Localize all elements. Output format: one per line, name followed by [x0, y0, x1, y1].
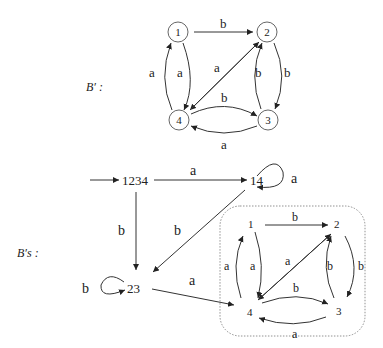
edge-4-3: [191, 106, 257, 116]
state-14: 14: [250, 173, 264, 188]
edge-label-1-4: a: [177, 65, 183, 80]
graph-b-s-prime: B′s : 1234 a 14 a b b 23 b a 1 2 3 4 b: [17, 163, 365, 341]
edge-label-3-4: a: [221, 137, 227, 152]
svg-text:a: a: [224, 259, 230, 273]
svg-text:a: a: [291, 171, 298, 186]
inner-edge-4-1: [236, 236, 243, 298]
edge-label-2-4: a: [214, 60, 220, 75]
inner-edge-3-4: [259, 317, 326, 324]
inner-state-1: 1: [248, 218, 254, 230]
inner-edge-1-4: [255, 232, 261, 298]
edge-2-3: [274, 43, 282, 109]
svg-text:3: 3: [265, 114, 271, 126]
edge-label-3-2: b: [255, 65, 262, 80]
svg-text:a: a: [285, 254, 291, 268]
edge-label-4-3: b: [221, 90, 228, 105]
svg-text:a: a: [292, 327, 298, 341]
edge-4-1: [165, 43, 172, 110]
inner-state-4: 4: [247, 306, 253, 318]
svg-text:4: 4: [176, 114, 182, 126]
svg-text:a: a: [189, 273, 196, 288]
graph-b-s-prime-label: B′s :: [17, 246, 39, 260]
svg-text:b: b: [292, 210, 298, 224]
graph-b-prime-label: B′ :: [86, 80, 103, 94]
edge-23-4: [152, 289, 234, 305]
inner-state-2: 2: [334, 218, 340, 230]
svg-text:b: b: [174, 223, 181, 238]
svg-text:b: b: [82, 281, 89, 296]
edge-label-2-3: b: [284, 65, 291, 80]
inner-edge-4-3: [262, 297, 328, 304]
state-23: 23: [127, 281, 140, 296]
svg-text:2: 2: [264, 26, 270, 38]
svg-text:a: a: [250, 259, 256, 273]
edge-3-4: [191, 126, 257, 133]
inner-state-3: 3: [336, 305, 342, 317]
svg-text:b: b: [358, 259, 364, 273]
edge-label-1-2: b: [220, 16, 227, 31]
svg-text:1: 1: [175, 26, 181, 38]
inner-edge-2-3: [345, 236, 354, 297]
edge-14-23: [153, 190, 245, 272]
svg-text:b: b: [118, 223, 125, 238]
automata-diagram: B′ : b a a a b b b a 1 2 3 4 B′s : 1234: [0, 0, 383, 348]
svg-text:b: b: [293, 281, 299, 295]
edge-1-4: [183, 43, 190, 110]
edge-23-23: [101, 277, 125, 294]
graph-b-prime: B′ : b a a a b b b a 1 2 3 4: [86, 16, 291, 152]
edge-label-4-1: a: [149, 65, 155, 80]
svg-text:a: a: [190, 163, 197, 178]
svg-text:b: b: [327, 259, 333, 273]
state-1234: 1234: [122, 173, 149, 188]
